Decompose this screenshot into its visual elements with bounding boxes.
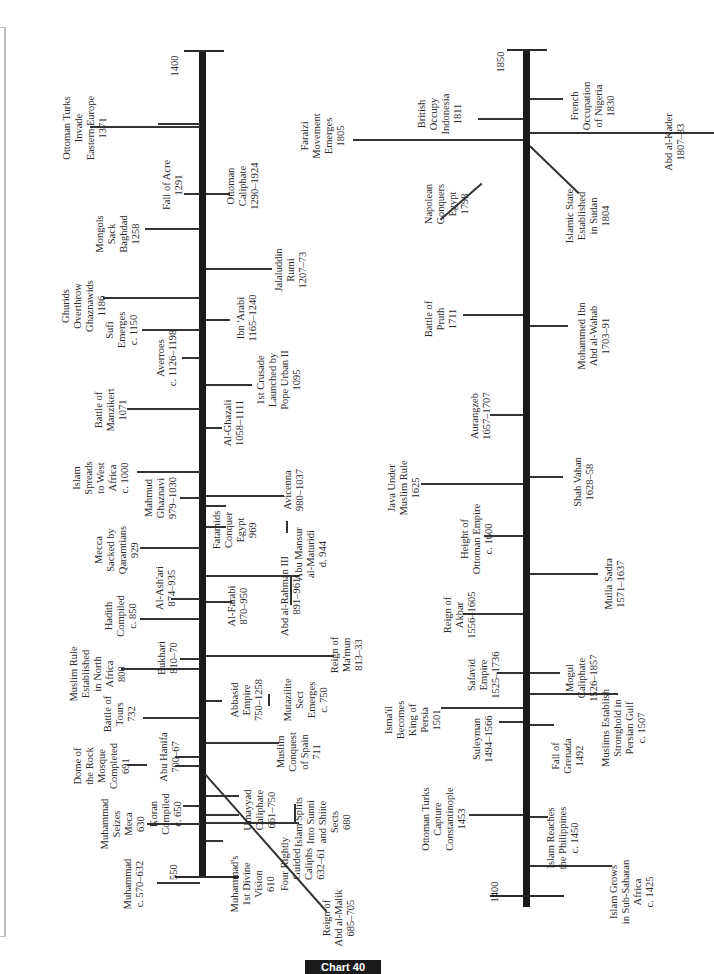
tick [490, 414, 523, 416]
event-faraizi: Faraizi Movement Emerges 1805 [299, 105, 347, 167]
tick [286, 521, 288, 533]
event-averroes: Averroes c. 1126–1198 [155, 325, 179, 391]
frame-border-top [0, 27, 6, 28]
event-abd-al-kader: Abd al-Kader 1807–83 [663, 109, 687, 175]
event-koran: Koran Compiled c. 650 [148, 792, 184, 836]
event-seizes-mecca: Muhammad Seizes Meca 630 [99, 795, 147, 853]
event-pruth: Battle of Pruth 1711 [423, 296, 459, 342]
event-mulla-sadra: Mulla Sadra 1571–1637 [603, 551, 627, 617]
event-persian-gulf: Muslims Establish Stronghold in Persian … [600, 678, 648, 778]
event-wahab: Mohammed Ibn Abd al-Wahab 1703–91 [576, 298, 612, 374]
axis-cap-top [507, 49, 547, 51]
event-mutazilite: Mutazilite Sect Emerges c. 750 [282, 670, 330, 730]
event-spain: Muslim Conquest of Spain 711 [275, 725, 323, 779]
event-shah-vahan: Shah Vahan 1628–58 [572, 454, 596, 510]
tick [268, 694, 270, 706]
tick [140, 618, 200, 620]
event-height-ottoman: Height of Ottoman Empire c. 1600 [459, 498, 495, 580]
event-mecca-sacked: Mecca Sacked by Qaramtians 929 [93, 519, 141, 581]
event-umayyad: Umayyad Caliphate 661–750 [242, 782, 278, 838]
tick [478, 118, 523, 120]
event-ghazali: Al-Ghazali 1058–1111 [222, 393, 246, 453]
frame-border [4, 27, 6, 937]
event-aurangzeb: Aurangzeb 1657–1707 [469, 387, 493, 445]
tick [206, 742, 279, 744]
tick [206, 384, 252, 386]
tick [182, 357, 200, 359]
event-baghdad: Mongols Sack Baghdad 1258 [94, 206, 142, 262]
tick [206, 655, 334, 657]
tick [530, 724, 554, 726]
event-napolean: Napolean Conquers Egypt 1798 [423, 175, 471, 233]
event-farabi: Al-Farabi 870–950 [226, 578, 250, 634]
event-akbar: Reign of Akbar 1556–1605 [442, 583, 478, 647]
event-muhammad: Muhammad c. 570–632 [122, 852, 146, 916]
event-acre: Fall of Acre 1291 [161, 153, 185, 217]
axis-label-1850: 1850 [495, 47, 507, 77]
event-abd-al-malik: Reign of Abd al-Malik 685–705 [321, 885, 357, 951]
event-fatamids: Fatamids Conquer Egypt 969 [211, 505, 259, 555]
event-manzikert: Battle of Manzikert 1071 [93, 379, 129, 441]
axis-cap-bottom [490, 895, 564, 897]
tick [469, 814, 523, 816]
axis-label-550: 550 [168, 860, 180, 884]
tick [145, 228, 200, 230]
tick [530, 325, 568, 327]
event-mahmud: Mahmud Ghaznavi 979–1030 [143, 469, 179, 527]
tick [206, 840, 223, 842]
event-sub-saharan: Islam Grows in Sub-Saharan Africa c. 142… [608, 850, 656, 934]
tick [157, 882, 200, 884]
tick [206, 427, 222, 429]
tick [140, 547, 200, 549]
event-abd-rahman: Abd al-Rahman III 891–961 [279, 553, 303, 639]
tick [206, 319, 230, 321]
event-tours: Battle of Tours 732 [102, 690, 138, 738]
event-abu-hanifa: Abu Hanifa 700–67 [158, 729, 182, 785]
tick [143, 717, 200, 719]
event-mogul: Mogul Caliphate 1526–1857 [564, 644, 600, 712]
event-west-africa: Islam Spreads to West Africa c. 1000 [71, 446, 131, 510]
event-rumi: Jalaluddin Rumi 1207–73 [273, 241, 309, 299]
tick [530, 573, 598, 575]
event-ismail: Isma'il Becomes King of Persia 1501 [383, 687, 443, 753]
event-java: Java Under Muslim Rule 1625 [386, 456, 422, 520]
event-crusade: 1st Crusade Launched by Pope Urban II 10… [255, 345, 303, 415]
event-grenada: Fall of Grenada 1492 [550, 731, 586, 781]
frame-border-bottom [0, 936, 6, 937]
event-ottoman-invade: Ottoman Turks Invade Eastern Europe 1371 [61, 79, 97, 177]
event-sufi: Sufi Emerges c. 1150 [104, 304, 140, 356]
tick [184, 193, 200, 195]
event-philippines: Islam Reaches the Philippines c. 1450 [545, 795, 581, 881]
event-dome: Dome of the Rock Mosque Completed 691 [72, 736, 132, 796]
event-ibn-arabi: Ibn 'Arabi 1165–1240 [235, 287, 259, 349]
event-abbasid: Abbasid Empire 750–1258 [229, 673, 265, 727]
tick [206, 700, 222, 702]
event-nigeria: French Occupation of Nigeria 1830 [569, 73, 617, 139]
event-four-caliphs: Four Rightly Guided Caliphs 632–61 [279, 829, 327, 899]
chart-number-badge: Chart 40 [305, 960, 381, 974]
tick [158, 123, 200, 125]
axis-label-1400: 1400 [169, 51, 181, 81]
event-avicenna: Avicenna 980–1037 [282, 463, 306, 517]
event-suleyman: Suleyman 1494–1566 [471, 708, 495, 770]
tick [206, 495, 284, 497]
timeline-axis-right [523, 50, 530, 907]
tick [103, 297, 200, 299]
event-vision: Muhammad's 1st Divine Vision 610 [229, 853, 277, 915]
event-mamun: Reign of Ma'mun 813–33 [329, 630, 365, 680]
event-safavid: Safavid Empire 1525–1736 [466, 643, 502, 707]
event-bukhari: Bukhari 810–70 [156, 634, 180, 682]
tick [530, 98, 563, 100]
axis-label-1400: 1400 [489, 877, 501, 907]
tick [206, 814, 239, 816]
event-ottoman-caliphate: Ottoman Caliphate 1290–1924 [225, 156, 261, 216]
event-sudan: Islamic State Established in Sudan 1804 [564, 184, 612, 248]
tick [530, 672, 560, 674]
event-constantinople: Ottoman Turks Capture Constantinople 145… [420, 781, 468, 857]
event-hadith: Hadith Compiled c. 850 [103, 589, 139, 643]
tick [180, 497, 200, 499]
tick [206, 268, 272, 270]
tick [421, 483, 523, 485]
timeline-axis-left [199, 51, 206, 878]
tick [530, 476, 563, 478]
